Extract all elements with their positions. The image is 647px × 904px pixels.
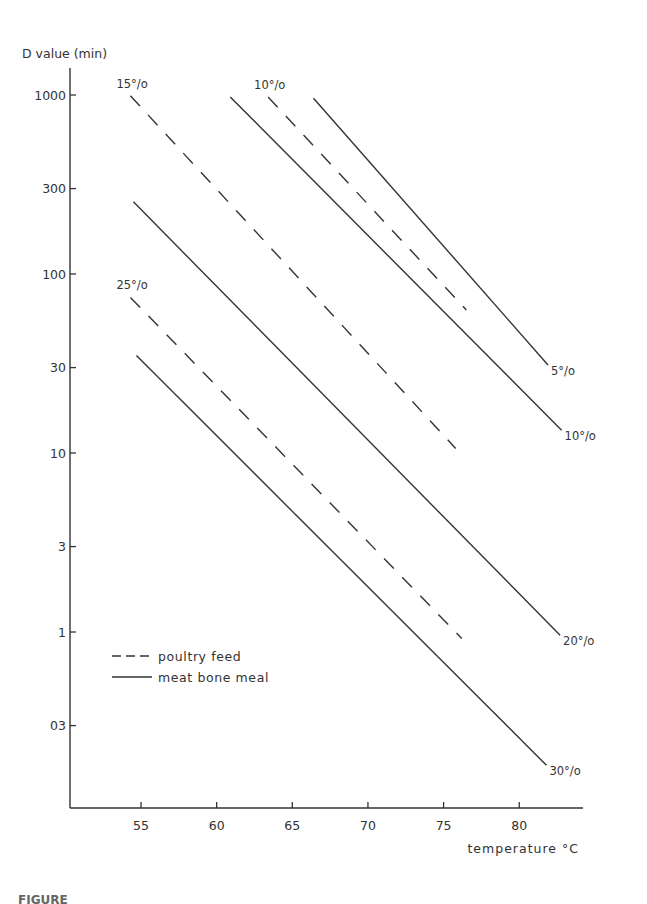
y-tick-label: 30 xyxy=(50,360,66,375)
axes: 556065707580100030010030103103 xyxy=(34,68,583,833)
legend-label: meat bone meal xyxy=(158,670,269,685)
series-label: 5°/o xyxy=(551,364,575,378)
series-label: 25°/o xyxy=(116,278,147,292)
y-tick-label: 1000 xyxy=(34,88,66,103)
y-tick-label: 03 xyxy=(50,718,66,733)
legend: poultry feedmeat bone meal xyxy=(112,649,269,685)
x-tick-label: 55 xyxy=(133,818,149,833)
series-label: 10°/o xyxy=(565,429,596,443)
y-tick-label: 100 xyxy=(42,267,66,282)
series-line xyxy=(230,97,561,430)
legend-label: poultry feed xyxy=(158,649,241,664)
x-tick-label: 80 xyxy=(511,818,527,833)
x-tick-label: 70 xyxy=(360,818,376,833)
series-lines xyxy=(130,96,561,766)
x-axis-label: temperature °C xyxy=(467,841,579,856)
series-line xyxy=(136,356,546,766)
series-label: 10°/o xyxy=(254,78,285,92)
figure-caption: FIGURE xyxy=(18,893,68,904)
series-line xyxy=(133,202,560,635)
y-tick-label: 1 xyxy=(58,625,66,640)
y-axis-label: D value (min) xyxy=(22,46,107,61)
y-tick-label: 300 xyxy=(42,181,66,196)
series-line xyxy=(130,297,461,638)
series-label: 20°/o xyxy=(563,634,594,648)
x-tick-label: 60 xyxy=(209,818,225,833)
series-label: 30°/o xyxy=(549,764,580,778)
x-tick-label: 75 xyxy=(436,818,452,833)
series-label: 15°/o xyxy=(116,77,147,91)
series-line xyxy=(130,96,455,449)
d-value-chart: 556065707580100030010030103103 5°/o10°/o… xyxy=(0,0,647,904)
series-line xyxy=(313,98,548,365)
y-tick-label: 3 xyxy=(58,539,66,554)
x-tick-label: 65 xyxy=(284,818,300,833)
y-tick-label: 10 xyxy=(50,446,66,461)
